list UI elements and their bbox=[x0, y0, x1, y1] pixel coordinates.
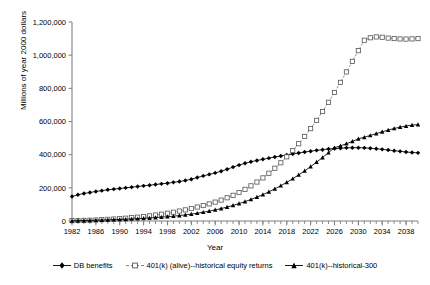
data-point bbox=[273, 155, 277, 159]
legend-marker-401k-alive bbox=[126, 261, 144, 270]
data-point bbox=[404, 37, 408, 41]
data-point bbox=[404, 150, 408, 154]
data-point bbox=[70, 194, 74, 198]
x-tick-label: 2010 bbox=[231, 227, 248, 236]
x-axis-title: Year bbox=[0, 243, 430, 252]
data-point bbox=[303, 134, 307, 138]
data-point bbox=[309, 127, 313, 131]
data-point bbox=[416, 151, 420, 155]
data-point bbox=[380, 35, 384, 39]
data-point bbox=[189, 206, 193, 210]
data-point bbox=[398, 37, 402, 41]
data-point bbox=[279, 183, 283, 187]
data-point bbox=[326, 100, 330, 104]
data-point bbox=[392, 36, 396, 40]
data-point bbox=[296, 173, 300, 177]
data-point bbox=[332, 90, 336, 94]
y-tick-label: 800,000 bbox=[39, 84, 66, 93]
data-point bbox=[201, 174, 205, 178]
y-tick-label: 400,000 bbox=[39, 150, 66, 159]
data-point bbox=[297, 142, 301, 146]
data-point bbox=[237, 190, 241, 194]
data-point bbox=[183, 208, 187, 212]
chart-container: Millions of year 2000 dollars 0200,00040… bbox=[0, 0, 430, 285]
data-point bbox=[374, 35, 378, 39]
data-point bbox=[314, 118, 318, 122]
data-point bbox=[106, 188, 110, 192]
data-point bbox=[368, 36, 372, 40]
data-point bbox=[320, 109, 324, 113]
data-point bbox=[94, 189, 98, 193]
data-point bbox=[195, 175, 199, 179]
data-point bbox=[261, 176, 265, 180]
data-point bbox=[261, 157, 265, 161]
data-point bbox=[207, 172, 211, 176]
data-point bbox=[129, 185, 133, 189]
data-point bbox=[231, 193, 235, 197]
legend-label: 401(k) (alive)--historical equity return… bbox=[147, 261, 273, 270]
chart-legend: DB benefits 401(k) (alive)--historical e… bbox=[0, 261, 430, 270]
data-point bbox=[410, 37, 414, 41]
data-point bbox=[285, 155, 289, 159]
series-2 bbox=[70, 122, 420, 222]
x-tick-label: 2022 bbox=[302, 227, 319, 236]
data-point bbox=[380, 147, 384, 151]
data-point bbox=[368, 146, 372, 150]
data-point bbox=[267, 190, 271, 194]
data-point bbox=[219, 198, 223, 202]
x-tick-label: 2006 bbox=[207, 227, 224, 236]
data-point bbox=[255, 158, 259, 162]
x-tick-label: 2026 bbox=[326, 227, 343, 236]
data-point bbox=[76, 193, 80, 197]
x-tick-label: 2018 bbox=[278, 227, 295, 236]
data-point bbox=[255, 180, 259, 184]
data-point bbox=[356, 49, 360, 53]
data-point bbox=[171, 180, 175, 184]
data-point bbox=[189, 177, 193, 181]
data-point bbox=[249, 184, 253, 188]
data-point bbox=[308, 149, 312, 153]
data-point bbox=[279, 161, 283, 165]
legend-item[interactable]: 401(k) (alive)--historical equity return… bbox=[126, 261, 273, 270]
data-point bbox=[362, 38, 366, 42]
x-tick-label: 2014 bbox=[255, 227, 272, 236]
data-point bbox=[123, 186, 127, 190]
data-point bbox=[243, 161, 247, 165]
data-point bbox=[273, 166, 277, 170]
legend-marker-401k-historical-300 bbox=[285, 261, 303, 270]
data-point bbox=[302, 150, 306, 154]
series-1 bbox=[70, 35, 420, 223]
x-tick-label: 1990 bbox=[111, 227, 128, 236]
x-tick-label: 2038 bbox=[398, 227, 415, 236]
data-point bbox=[320, 147, 324, 151]
data-point bbox=[279, 154, 283, 158]
data-point bbox=[195, 205, 199, 209]
data-point bbox=[362, 146, 366, 150]
data-point bbox=[261, 192, 265, 196]
legend-item[interactable]: DB benefits bbox=[53, 261, 113, 270]
data-point bbox=[374, 146, 378, 150]
data-point bbox=[416, 36, 420, 40]
data-point bbox=[177, 179, 181, 183]
data-point bbox=[296, 151, 300, 155]
data-point bbox=[88, 190, 92, 194]
data-point bbox=[112, 187, 116, 191]
legend-item[interactable]: 401(k)--historical-300 bbox=[285, 261, 377, 270]
x-tick-label: 2002 bbox=[183, 227, 200, 236]
data-point bbox=[207, 202, 211, 206]
data-point bbox=[392, 148, 396, 152]
data-point bbox=[237, 163, 241, 167]
data-point bbox=[291, 176, 295, 180]
y-tick-label: 0 bbox=[62, 217, 66, 226]
data-point bbox=[410, 150, 414, 154]
data-point bbox=[314, 148, 318, 152]
x-tick-label: 1998 bbox=[159, 227, 176, 236]
y-tick-label: 1,000,000 bbox=[33, 51, 66, 60]
legend-marker-db-benefits bbox=[53, 261, 71, 270]
data-point bbox=[177, 209, 181, 213]
data-point bbox=[219, 169, 223, 173]
data-point bbox=[344, 70, 348, 74]
y-tick-label: 200,000 bbox=[39, 184, 66, 193]
data-point bbox=[273, 187, 277, 191]
data-point bbox=[183, 178, 187, 182]
